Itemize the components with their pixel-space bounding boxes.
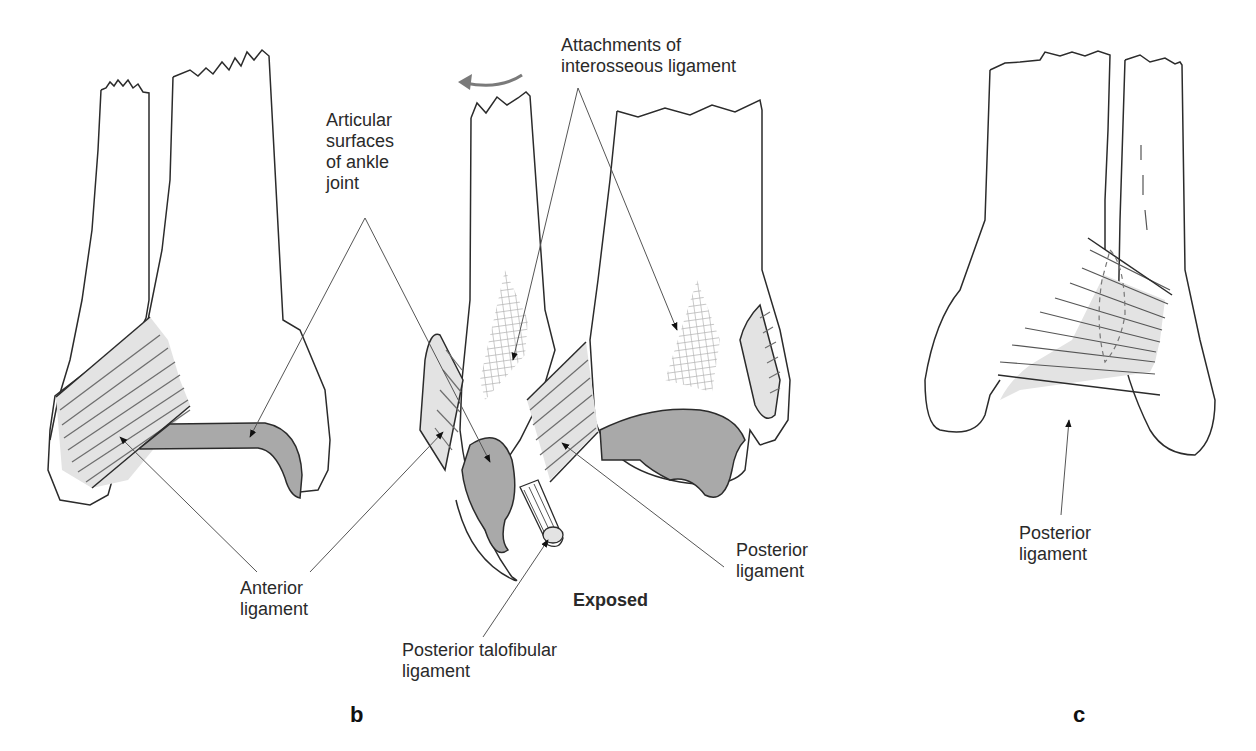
anatomy-figure: Articular surfaces of ankle joint Attach… — [0, 0, 1256, 751]
articular-surface-tibia — [600, 409, 745, 497]
panel-label-b: b — [350, 702, 363, 728]
panel-label-c: c — [1073, 702, 1085, 728]
figure-svg — [0, 0, 1256, 751]
interosseous-attachment-fibula — [480, 270, 528, 400]
label-exposed: Exposed — [573, 590, 648, 611]
posterior-ligament-c — [998, 238, 1172, 400]
label-anterior-ligament: Anterior ligament — [240, 578, 308, 620]
label-articular-surfaces: Articular surfaces of ankle joint — [326, 110, 394, 194]
posterior-talofibular-cut — [520, 480, 563, 546]
posterior-view — [925, 51, 1215, 455]
leader-lines — [120, 88, 1069, 637]
articular-surface-anterior — [140, 423, 302, 498]
interosseous-attachment-tibia — [665, 280, 720, 392]
posterior-ligament-cut — [740, 305, 780, 418]
anterior-ligament — [56, 317, 190, 488]
label-posterior-talofibular: Posterior talofibular ligament — [402, 640, 557, 682]
rotation-arrow-icon — [465, 75, 522, 85]
label-posterior-ligament-b: Posterior ligament — [736, 540, 808, 582]
tibia-posterior — [990, 51, 1110, 250]
posterior-ligament-b — [527, 342, 598, 482]
fibula-posterior — [1118, 55, 1215, 455]
label-posterior-ligament-c: Posterior ligament — [1019, 523, 1091, 565]
label-interosseous-attachments: Attachments of interosseous ligament — [561, 35, 736, 77]
articular-surface-fibula — [462, 438, 515, 553]
